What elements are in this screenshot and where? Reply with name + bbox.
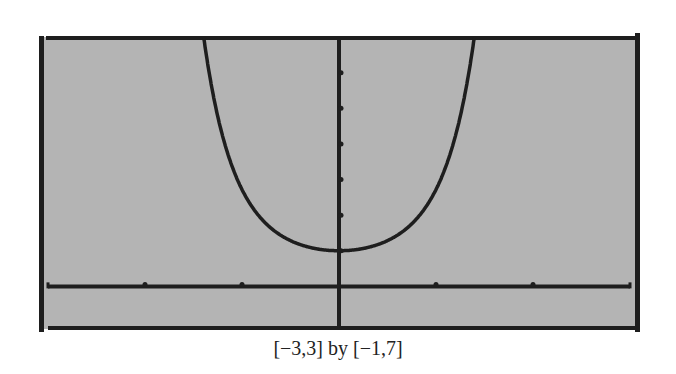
y-tick (339, 141, 344, 146)
x-tick (240, 282, 245, 287)
x-tick (531, 282, 536, 287)
y-tick (339, 70, 344, 75)
frame-bottom-line (48, 326, 636, 330)
y-tick (339, 213, 344, 218)
graph-window (0, 0, 676, 374)
y-tick (339, 177, 344, 182)
y-tick (339, 106, 344, 111)
frame-left-bar (39, 36, 44, 332)
x-tick (434, 282, 439, 287)
window-range-caption: [−3,3] by [−1,7] (0, 337, 676, 360)
x-tick (143, 282, 148, 287)
frame-right-bar (635, 33, 640, 332)
